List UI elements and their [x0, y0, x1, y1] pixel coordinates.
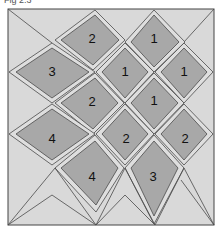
diamond-label: 2 — [88, 94, 95, 109]
diamond-label: 1 — [150, 31, 157, 46]
diamond-label: 2 — [181, 131, 188, 146]
diamond-label: 4 — [48, 131, 55, 146]
diamond-label: 1 — [121, 64, 128, 79]
diamond-diagram: 2 1 3 1 1 2 1 4 2 2 4 3 — [0, 0, 220, 232]
diamond-label: 2 — [88, 31, 95, 46]
diamond-label: 2 — [122, 131, 129, 146]
diamond-label: 1 — [150, 93, 157, 108]
diamond-label: 3 — [48, 64, 55, 79]
diamond-label: 1 — [180, 64, 187, 79]
diamond-label: 4 — [88, 169, 95, 184]
diamond-label: 3 — [149, 169, 156, 184]
